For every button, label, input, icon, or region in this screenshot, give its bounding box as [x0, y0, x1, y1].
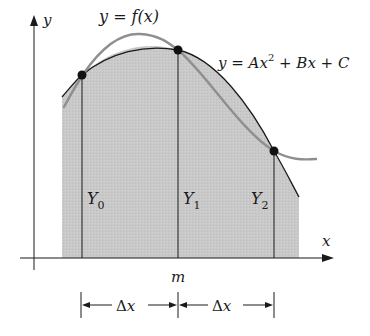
point-p2 [270, 147, 279, 156]
parabola-label: y = Ax2 + Bx + C [217, 52, 350, 72]
arrow-left-icon [179, 302, 187, 308]
function-label: y = f(x) [98, 7, 159, 26]
arrow-right-icon [265, 302, 273, 308]
y-axis-label: y [42, 11, 52, 29]
y-axis-arrow-icon [30, 15, 38, 26]
x-axis-arrow-icon [322, 254, 334, 262]
midpoint-label: m [171, 268, 185, 286]
x-axis-label: x [322, 232, 331, 250]
delta-x-right: Δx [212, 297, 232, 315]
simpson-rule-diagram: y x y = f(x) y = Ax2 + Bx + C Y0 Y1 Y2 m… [0, 0, 370, 336]
delta-x-left: Δx [116, 297, 136, 315]
arrow-left-icon [82, 302, 90, 308]
arrow-right-icon [169, 302, 177, 308]
point-p0 [78, 71, 87, 80]
point-p1 [174, 46, 183, 55]
shaded-area [62, 46, 299, 258]
